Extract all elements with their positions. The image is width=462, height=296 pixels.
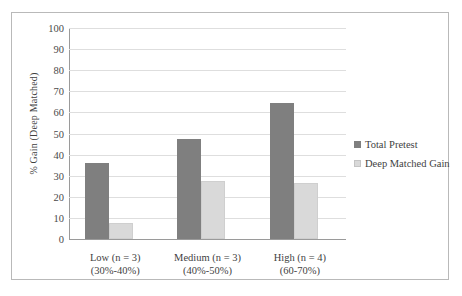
y-tick-label: 100 (48, 23, 64, 34)
y-axis-title: % Gain (Deep Matched) (28, 39, 39, 209)
legend-item: Deep Matched Gain (354, 158, 462, 169)
bar-total-pretest (270, 103, 294, 239)
y-tick-label: 90 (54, 44, 65, 55)
legend-swatch-icon (354, 160, 361, 167)
y-tick-label: 20 (54, 191, 65, 202)
x-axis-category-label: High (n = 4)(60-70%) (245, 251, 355, 277)
legend-label: Total Pretest (365, 139, 418, 150)
chart-figure: % Gain (Deep Matched) 100908070605040302… (11, 12, 449, 280)
chart-legend: Total PretestDeep Matched Gain (354, 139, 462, 177)
bar-deep-matched-gain (201, 181, 225, 239)
bar-total-pretest (85, 163, 109, 239)
bar-group (161, 28, 253, 239)
y-tick-label: 40 (54, 149, 65, 160)
category-range: (60-70%) (245, 264, 355, 277)
legend-item: Total Pretest (354, 139, 462, 150)
legend-label: Deep Matched Gain (365, 158, 450, 169)
category-name: Medium (n = 3) (174, 252, 241, 263)
gridline: 0 (69, 239, 346, 240)
y-tick-label: 80 (54, 65, 65, 76)
bar-deep-matched-gain (294, 183, 318, 239)
y-tick-label: 50 (54, 128, 65, 139)
plot-area: 1009080706050403020100 Low (n = 3)(30%-4… (69, 28, 346, 239)
y-tick-label: 30 (54, 170, 65, 181)
y-tick-label: 10 (54, 212, 65, 223)
bar-deep-matched-gain (109, 223, 133, 239)
legend-swatch-icon (354, 141, 361, 148)
bar-total-pretest (177, 139, 201, 239)
y-tick-label: 70 (54, 86, 65, 97)
bar-group (69, 28, 161, 239)
bar-groups (69, 28, 346, 239)
y-tick-label: 0 (59, 234, 64, 245)
category-name: High (n = 4) (274, 252, 326, 263)
category-name: Low (n = 3) (90, 252, 141, 263)
y-tick-label: 60 (54, 107, 65, 118)
bar-group (254, 28, 346, 239)
